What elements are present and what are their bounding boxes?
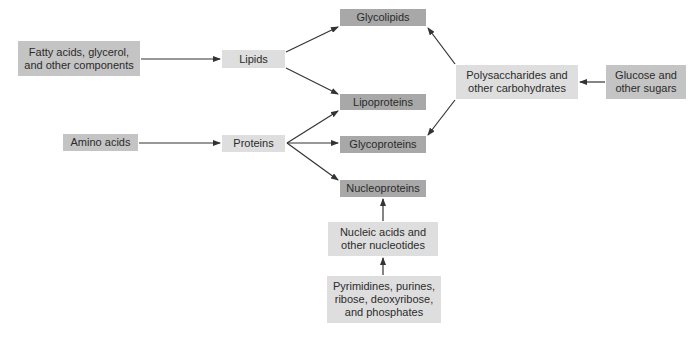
arrow-polysaccharides-to-glycolipids <box>428 28 455 64</box>
node-fatty-acids: Fatty acids, glycerol, and other compone… <box>18 41 140 76</box>
node-lipoproteins: Lipoproteins <box>340 94 426 110</box>
node-nucleoproteins: Nucleoproteins <box>340 180 426 197</box>
node-fatty-acids-label: Fatty acids, glycerol, and other compone… <box>24 46 133 72</box>
node-glycolipids: Glycolipids <box>340 9 426 26</box>
node-lipoproteins-label: Lipoproteins <box>353 96 413 109</box>
node-glycoproteins: Glycoproteins <box>340 136 426 153</box>
arrow-proteins-to-lipoproteins <box>287 111 338 143</box>
node-nucleic-acids-label: Nucleic acids and other nucleotides <box>340 226 426 252</box>
arrow-proteins-to-nucleoproteins <box>287 143 338 180</box>
node-lipids-label: Lipids <box>239 53 268 66</box>
node-amino-acids: Amino acids <box>63 134 138 151</box>
node-lipids: Lipids <box>222 50 285 68</box>
arrow-lipids-to-glycolipids <box>286 27 338 52</box>
node-glycoproteins-label: Glycoproteins <box>349 138 416 151</box>
node-amino-acids-label: Amino acids <box>71 136 131 149</box>
arrow-polysaccharides-to-glycoproteins <box>428 100 455 135</box>
arrow-lipids-to-lipoproteins <box>286 68 338 94</box>
node-polysaccharides-label: Polysaccharides and other carbohydrates <box>466 69 568 95</box>
node-glucose: Glucose and other sugars <box>606 65 686 99</box>
node-nucleic-acids: Nucleic acids and other nucleotides <box>328 222 438 256</box>
node-proteins: Proteins <box>222 135 285 152</box>
node-polysaccharides: Polysaccharides and other carbohydrates <box>456 65 578 99</box>
node-pyrimidines: Pyrimidines, purines, ribose, deoxyribos… <box>327 276 441 323</box>
node-glucose-label: Glucose and other sugars <box>615 69 677 95</box>
node-pyrimidines-label: Pyrimidines, purines, ribose, deoxyribos… <box>333 280 435 319</box>
node-glycolipids-label: Glycolipids <box>356 11 409 24</box>
node-nucleoproteins-label: Nucleoproteins <box>346 182 419 195</box>
node-proteins-label: Proteins <box>233 137 273 150</box>
